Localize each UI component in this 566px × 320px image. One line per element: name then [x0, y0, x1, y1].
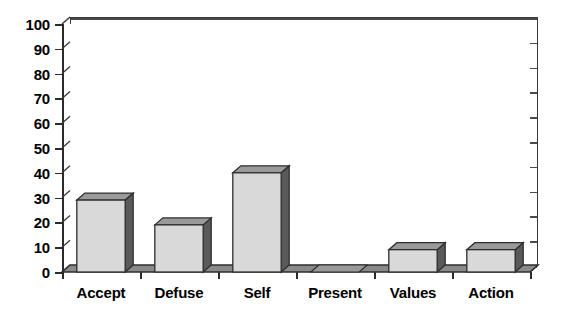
ytick-10 [55, 247, 62, 249]
xtick-3 [296, 272, 298, 279]
ytick-label-90: 90 [34, 42, 50, 57]
value-axis: 100 90 80 70 60 50 40 30 20 10 0 [0, 0, 58, 320]
bar-chart: 100 90 80 70 60 50 40 30 20 10 0 Accept [0, 0, 566, 320]
xtick-5 [452, 272, 454, 279]
ytick-label-40: 40 [34, 166, 50, 181]
xtick-label-values: Values [374, 284, 452, 301]
ytick-90 [55, 49, 62, 51]
gridline-100 [71, 18, 537, 20]
xtick-0 [62, 272, 64, 279]
ytick-20 [55, 222, 62, 224]
ytick-label-50: 50 [34, 141, 50, 156]
xtick-4 [374, 272, 376, 279]
category-axis: Accept Defuse Self Present Values Action [0, 284, 566, 308]
plot-area [62, 24, 530, 272]
xtick-6 [530, 272, 532, 279]
ytick-40 [55, 173, 62, 175]
ytick-label-100: 100 [26, 17, 50, 32]
ytick-100 [55, 24, 62, 26]
ytick-30 [55, 198, 62, 200]
ytick-label-80: 80 [34, 67, 50, 82]
ytick-70 [55, 98, 62, 100]
ytick-80 [55, 74, 62, 76]
ytick-label-20: 20 [34, 215, 50, 230]
xtick-2 [218, 272, 220, 279]
xtick-label-self: Self [218, 284, 296, 301]
ytick-label-30: 30 [34, 191, 50, 206]
xtick-label-action: Action [452, 284, 530, 301]
ytick-label-10: 10 [34, 240, 50, 255]
xtick-1 [140, 272, 142, 279]
ytick-50 [55, 148, 62, 150]
ytick-label-70: 70 [34, 91, 50, 106]
xtick-label-defuse: Defuse [140, 284, 218, 301]
xtick-label-accept: Accept [62, 284, 140, 301]
ytick-60 [55, 123, 62, 125]
ytick-label-0: 0 [42, 265, 50, 280]
ytick-label-60: 60 [34, 116, 50, 131]
xtick-label-present: Present [296, 284, 374, 301]
ytick-0 [55, 272, 62, 274]
